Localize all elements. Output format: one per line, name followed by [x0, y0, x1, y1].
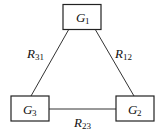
edge-r12: [95, 29, 134, 96]
node-g1-sub: 1: [85, 16, 90, 26]
edge-r31: [31, 29, 69, 96]
label-r23-sub: 23: [82, 121, 92, 131]
label-r23-letter: R: [73, 115, 82, 130]
label-r23: R 23: [73, 115, 92, 131]
node-g1: G 1: [63, 5, 101, 30]
node-g2: G 2: [116, 96, 154, 121]
node-g3: G 3: [11, 96, 49, 121]
label-r12-sub: 12: [123, 52, 132, 62]
label-r12: R 12: [114, 46, 132, 62]
label-r31-letter: R: [26, 46, 35, 61]
label-r12-letter: R: [114, 46, 123, 61]
network-diagram: G 1 G 3 G 2 R 31 R 12 R 23: [0, 0, 158, 137]
label-r31-sub: 31: [35, 52, 44, 62]
node-g2-sub: 2: [137, 108, 142, 118]
node-g3-sub: 3: [32, 108, 37, 118]
label-r31: R 31: [26, 46, 44, 62]
